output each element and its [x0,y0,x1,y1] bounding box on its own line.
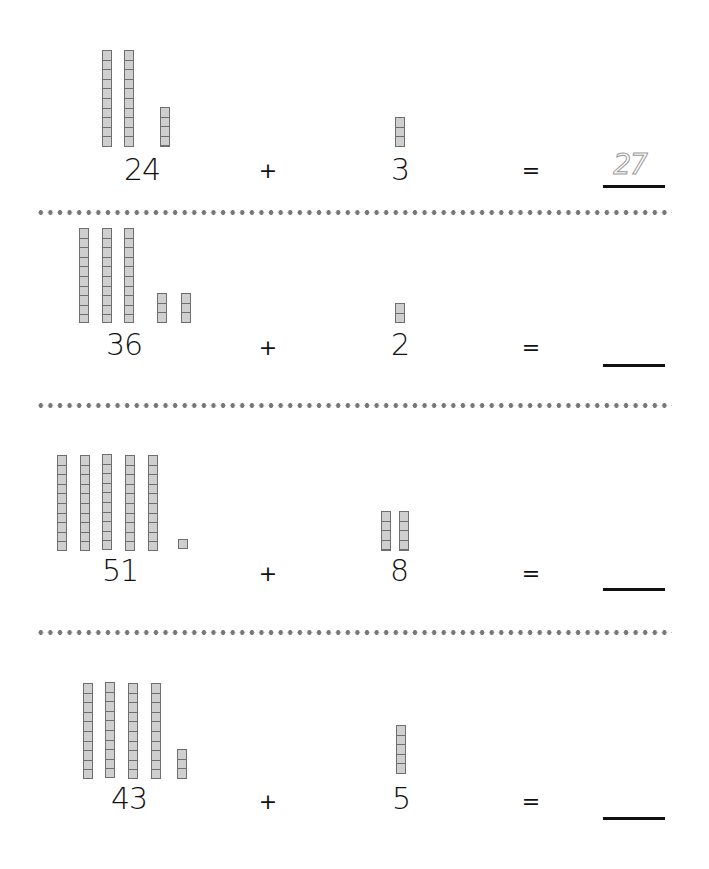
ones-cubes-stack [181,293,191,323]
equals-sign: = [522,337,540,359]
ten-rod [128,683,138,779]
traced-answer: 27 [613,151,647,179]
ten-rod [80,455,90,551]
ones-cubes-stack [160,107,170,147]
ten-rod [102,454,112,550]
dotted-divider [36,630,672,635]
equals-sign: = [522,791,540,813]
addend1: 24 [124,155,160,185]
answer-line[interactable] [603,185,665,188]
addend2: 5 [392,784,410,814]
ones-cubes-addend2 [399,511,409,551]
equals-sign: = [522,563,540,585]
ones-cubes-stack [157,293,167,323]
plus-sign: + [259,160,277,182]
addend1: 36 [106,330,142,360]
answer-line[interactable] [603,817,665,820]
ten-rod [151,683,161,779]
equals-sign: = [522,160,540,182]
answer-line[interactable] [603,588,665,591]
plus-sign: + [259,563,277,585]
ten-rod [148,455,158,551]
ten-rod [124,228,134,323]
ones-cubes-stack [177,749,187,779]
addend2: 3 [391,155,409,185]
ones-cubes-addend2 [381,511,391,551]
answer-line[interactable] [603,364,665,367]
addend2: 2 [391,330,409,360]
ones-cubes-addend2 [395,117,405,147]
ten-rod [102,50,112,147]
ten-rod [124,50,134,147]
addend2: 8 [390,556,408,586]
ten-rod [102,228,112,323]
ten-rod [125,455,135,551]
ten-rod [79,228,89,323]
addend1: 43 [111,784,147,814]
dotted-divider [36,210,672,215]
ones-cube [178,539,188,549]
plus-sign: + [259,337,277,359]
dotted-divider [36,403,672,408]
ten-rod [57,455,67,551]
ten-rod [83,683,93,779]
ten-rod [105,682,115,778]
ones-cubes-addend2 [396,725,406,774]
ones-cubes-addend2 [395,303,405,323]
addend1: 51 [102,556,138,586]
plus-sign: + [259,791,277,813]
